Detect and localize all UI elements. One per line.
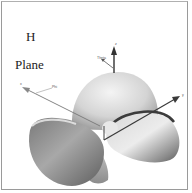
phi-label: Phi [52,85,57,89]
y-axis-label: y [182,93,184,97]
right-lobe [106,112,179,163]
theta-label: Theta [97,56,106,60]
x-axis-label: x [20,82,22,86]
plane-word-label: Plane [15,57,44,73]
z-axis-label: z [115,42,117,46]
plane-letter-label: H [26,29,35,45]
z-axis-arrow [111,46,117,73]
theta-arrow [101,59,113,68]
